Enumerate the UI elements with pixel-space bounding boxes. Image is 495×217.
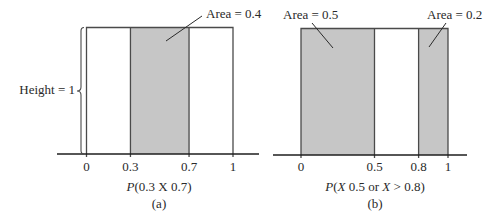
formula-part: > 0.8) — [390, 179, 424, 194]
formula-part: 0.7) — [168, 179, 192, 194]
shaded-region — [419, 29, 448, 156]
x-tick-label: 1 — [445, 159, 452, 174]
x-tick-label: 0 — [83, 159, 90, 174]
formula-part: P — [125, 179, 134, 194]
probability-formula: P(0.3 X 0.7) — [125, 179, 191, 194]
panel-caption: (b) — [367, 196, 382, 211]
shaded-region — [301, 29, 375, 156]
x-tick-label: 0.7 — [181, 159, 198, 174]
formula-part: P — [324, 179, 333, 194]
x-tick-label: 0.8 — [410, 159, 426, 174]
area-annotation: Area = 0.2 — [427, 7, 482, 22]
formula-part: 0.5 or — [346, 179, 383, 194]
area-annotation: Area = 0.4 — [206, 6, 262, 21]
panel-caption: (a) — [152, 196, 166, 211]
panel-a: 00.30.71P(0.3 X 0.7)(a)Area = 0.4Height … — [19, 6, 262, 211]
x-tick-label: 0 — [298, 159, 305, 174]
shaded-region — [130, 28, 189, 155]
x-tick-label: 0.3 — [122, 159, 138, 174]
x-tick-label: 0.5 — [366, 159, 382, 174]
area-annotation: Area = 0.5 — [283, 7, 338, 22]
uniform-probability-figure: 00.30.71P(0.3 X 0.7)(a)Area = 0.4Height … — [0, 0, 495, 217]
formula-part: (0.3 — [134, 179, 158, 194]
curly-brace-icon — [77, 28, 84, 155]
panel-b: 00.50.81P(X 0.5 or X > 0.8)(b)Area = 0.5… — [273, 7, 482, 211]
x-tick-label: 1 — [230, 159, 237, 174]
height-label: Height = 1 — [19, 82, 75, 97]
probability-formula: P(X 0.5 or X > 0.8) — [324, 179, 424, 194]
